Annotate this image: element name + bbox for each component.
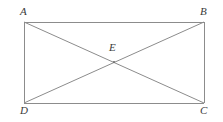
intersection-point-e <box>113 61 115 63</box>
vertex-label-c: C <box>200 105 207 116</box>
vertex-label-b: B <box>200 6 207 17</box>
geometry-figure: A B C D E <box>0 0 223 122</box>
vertex-label-a: A <box>20 6 27 17</box>
vertex-label-e: E <box>109 42 116 53</box>
rectangle-diagonals-svg <box>0 0 223 122</box>
vertex-label-d: D <box>20 105 28 116</box>
